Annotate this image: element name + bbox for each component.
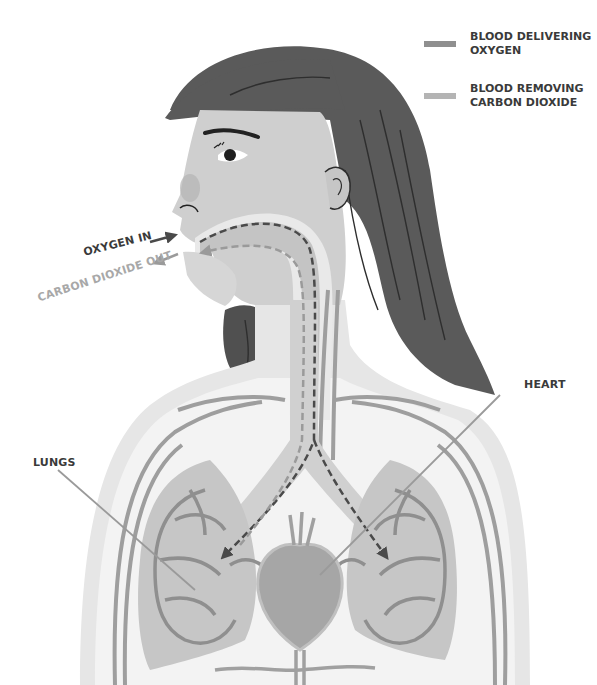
swatch-oxygen — [424, 41, 456, 47]
respiratory-diagram: BLOOD DELIVERING OXYGEN BLOOD REMOVING C… — [0, 0, 597, 685]
lungs-label: LUNGS — [33, 456, 76, 470]
legend-label: CARBON DIOXIDE — [470, 96, 584, 110]
legend-label: OXYGEN — [470, 44, 591, 58]
legend-label: BLOOD REMOVING — [470, 82, 584, 96]
legend-item-oxygen: BLOOD DELIVERING OXYGEN — [424, 30, 591, 58]
legend-item-co2: BLOOD REMOVING CARBON DIOXIDE — [424, 82, 584, 110]
heart-label: HEART — [524, 378, 566, 392]
legend-label: BLOOD DELIVERING — [470, 30, 591, 44]
oxygen-in-arrow — [150, 236, 172, 242]
swatch-co2 — [424, 93, 456, 99]
